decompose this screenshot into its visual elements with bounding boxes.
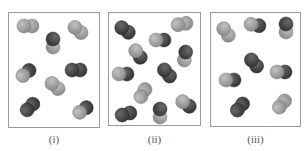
molecule-ii-1	[112, 18, 138, 42]
molecule-i-7	[17, 94, 42, 119]
molecule-ii-4	[126, 41, 150, 67]
molecule-ii-9	[173, 92, 199, 116]
molecule-ii-7	[155, 60, 180, 86]
molecule-iii-1	[214, 19, 238, 45]
molecule-ii-10	[114, 104, 139, 123]
molecule-iii-6	[270, 65, 292, 79]
light-atom	[149, 33, 163, 47]
light-atom	[219, 73, 233, 87]
dark-atom	[279, 17, 293, 31]
dark-atom	[46, 32, 60, 46]
molecule-ii-11	[153, 102, 167, 124]
molecule-i-4	[13, 61, 39, 86]
molecule-ii-6	[112, 67, 134, 81]
molecule-i-2	[65, 18, 91, 43]
molecule-ii-2	[170, 15, 194, 33]
molecule-i-6	[42, 74, 68, 99]
molecule-iii-5	[219, 73, 241, 87]
molecule-ii-5	[176, 44, 194, 68]
molecule-ii-3	[149, 33, 171, 47]
molecule-i-8	[70, 98, 96, 122]
molecule-iii-3	[279, 17, 293, 39]
molecule-i-3	[46, 32, 60, 54]
light-atom	[17, 19, 31, 33]
molecule-i-1	[17, 19, 39, 33]
dark-atom	[65, 63, 79, 77]
light-atom	[112, 67, 126, 81]
dark-atom	[153, 102, 167, 116]
molecule-iii-4	[242, 50, 267, 76]
molecule-iii-2	[243, 16, 267, 34]
molecules-layer	[0, 0, 308, 151]
light-atom	[270, 65, 284, 79]
molecule-i-5	[65, 63, 87, 77]
molecule-iii-7	[228, 94, 253, 120]
molecule-iii-8	[270, 91, 295, 117]
molecule-ii-8	[131, 80, 154, 106]
